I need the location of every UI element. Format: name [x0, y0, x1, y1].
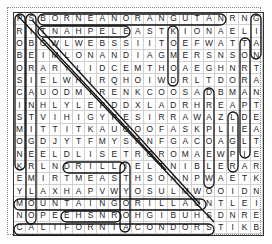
grid-cell[interactable]: I: [227, 124, 239, 136]
grid-cell[interactable]: R: [26, 62, 38, 74]
grid-cell[interactable]: C: [192, 136, 204, 148]
grid-cell[interactable]: I: [85, 74, 97, 86]
grid-cell[interactable]: D: [204, 87, 216, 99]
grid-cell[interactable]: W: [61, 74, 73, 86]
grid-cell[interactable]: H: [73, 210, 85, 222]
grid-cell[interactable]: I: [85, 87, 97, 99]
grid-cell[interactable]: S: [144, 173, 156, 185]
grid-cell[interactable]: M: [227, 87, 239, 99]
grid-cell[interactable]: O: [26, 210, 38, 222]
grid-cell[interactable]: M: [180, 148, 192, 160]
grid-cell[interactable]: L: [215, 124, 227, 136]
grid-cell[interactable]: G: [38, 38, 50, 50]
grid-cell[interactable]: O: [14, 38, 26, 50]
grid-cell[interactable]: O: [192, 25, 204, 37]
grid-cell[interactable]: A: [251, 124, 263, 136]
grid-cell[interactable]: T: [50, 124, 62, 136]
grid-cell[interactable]: N: [121, 87, 133, 99]
grid-cell[interactable]: E: [215, 161, 227, 173]
grid-cell[interactable]: A: [144, 50, 156, 62]
grid-cell[interactable]: H: [73, 25, 85, 37]
grid-cell[interactable]: S: [204, 210, 216, 222]
grid-cell[interactable]: G: [227, 136, 239, 148]
grid-cell[interactable]: D: [215, 74, 227, 86]
grid-cell[interactable]: L: [38, 222, 50, 234]
grid-cell[interactable]: A: [38, 185, 50, 197]
grid-cell[interactable]: Y: [14, 185, 26, 197]
grid-cell[interactable]: U: [38, 197, 50, 209]
grid-cell[interactable]: D: [61, 87, 73, 99]
grid-cell[interactable]: T: [204, 74, 216, 86]
grid-cell[interactable]: D: [239, 111, 251, 123]
grid-cell[interactable]: D: [239, 185, 251, 197]
grid-cell[interactable]: H: [132, 173, 144, 185]
grid-cell[interactable]: E: [239, 124, 251, 136]
grid-cell[interactable]: O: [14, 136, 26, 148]
grid-cell[interactable]: I: [38, 173, 50, 185]
grid-cell[interactable]: B: [251, 222, 263, 234]
grid-cell[interactable]: I: [144, 38, 156, 50]
grid-cell[interactable]: A: [192, 87, 204, 99]
grid-cell[interactable]: R: [85, 222, 97, 234]
grid-cell[interactable]: K: [168, 25, 180, 37]
grid-cell[interactable]: L: [50, 148, 62, 160]
grid-cell[interactable]: S: [109, 173, 121, 185]
grid-cell[interactable]: B: [192, 161, 204, 173]
grid-cell[interactable]: T: [239, 38, 251, 50]
grid-cell[interactable]: S: [121, 136, 133, 148]
grid-cell[interactable]: W: [156, 74, 168, 86]
grid-cell[interactable]: T: [156, 38, 168, 50]
grid-cell[interactable]: G: [85, 111, 97, 123]
grid-cell[interactable]: R: [50, 62, 62, 74]
grid-cell[interactable]: H: [132, 210, 144, 222]
grid-cell[interactable]: N: [204, 197, 216, 209]
grid-cell[interactable]: T: [251, 99, 263, 111]
grid-cell[interactable]: A: [180, 197, 192, 209]
grid-cell[interactable]: R: [132, 13, 144, 25]
grid-cell[interactable]: R: [239, 74, 251, 86]
grid-cell[interactable]: W: [204, 38, 216, 50]
grid-cell[interactable]: N: [50, 161, 62, 173]
grid-cell[interactable]: I: [121, 161, 133, 173]
grid-cell[interactable]: U: [180, 210, 192, 222]
grid-cell[interactable]: N: [109, 50, 121, 62]
grid-cell[interactable]: N: [73, 13, 85, 25]
grid-cell[interactable]: L: [239, 25, 251, 37]
grid-cell[interactable]: D: [168, 74, 180, 86]
grid-cell[interactable]: F: [156, 136, 168, 148]
grid-cell[interactable]: E: [251, 148, 263, 160]
grid-cell[interactable]: O: [50, 13, 62, 25]
grid-cell[interactable]: Y: [61, 62, 73, 74]
grid-cell[interactable]: A: [97, 50, 109, 62]
grid-cell[interactable]: E: [227, 25, 239, 37]
grid-cell[interactable]: S: [14, 111, 26, 123]
grid-cell[interactable]: N: [215, 50, 227, 62]
grid-cell[interactable]: A: [180, 62, 192, 74]
grid-cell[interactable]: U: [156, 185, 168, 197]
grid-cell[interactable]: A: [251, 74, 263, 86]
grid-cell[interactable]: U: [109, 124, 121, 136]
grid-cell[interactable]: C: [109, 62, 121, 74]
grid-cell[interactable]: P: [97, 99, 109, 111]
grid-cell[interactable]: C: [14, 222, 26, 234]
grid-cell[interactable]: B: [26, 38, 38, 50]
grid-cell[interactable]: O: [14, 62, 26, 74]
grid-cell[interactable]: X: [50, 185, 62, 197]
grid-cell[interactable]: E: [61, 210, 73, 222]
grid-cell[interactable]: H: [73, 74, 85, 86]
grid-cell[interactable]: E: [26, 148, 38, 160]
grid-cell[interactable]: E: [239, 197, 251, 209]
grid-cell[interactable]: K: [85, 124, 97, 136]
grid-cell[interactable]: C: [144, 87, 156, 99]
grid-cell[interactable]: O: [144, 222, 156, 234]
grid-cell[interactable]: N: [156, 222, 168, 234]
grid-cell[interactable]: T: [73, 136, 85, 148]
grid-cell[interactable]: T: [26, 111, 38, 123]
grid-cell[interactable]: H: [215, 62, 227, 74]
grid-cell[interactable]: L: [26, 185, 38, 197]
grid-cell[interactable]: I: [85, 148, 97, 160]
grid-cell[interactable]: P: [227, 148, 239, 160]
grid-cell[interactable]: K: [132, 87, 144, 99]
grid-cell[interactable]: W: [192, 185, 204, 197]
grid-cell[interactable]: S: [204, 50, 216, 62]
